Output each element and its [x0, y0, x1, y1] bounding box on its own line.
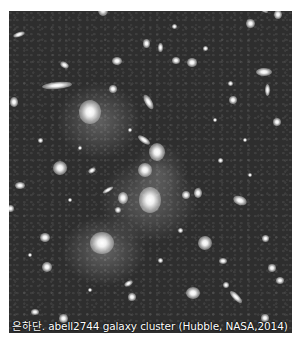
galaxy	[172, 57, 180, 64]
galaxy	[139, 187, 161, 213]
galaxy	[246, 19, 255, 28]
galaxy	[68, 198, 72, 202]
galaxy	[256, 68, 272, 76]
galaxy	[172, 24, 177, 29]
galaxy	[109, 85, 117, 93]
galaxy	[194, 188, 202, 198]
galaxy	[42, 262, 52, 272]
galaxy	[262, 235, 269, 242]
galaxy	[198, 236, 212, 250]
galaxy	[149, 143, 165, 161]
galaxy	[10, 97, 18, 107]
galaxy	[213, 118, 217, 122]
galaxy	[276, 277, 284, 284]
galaxy	[31, 309, 39, 315]
galaxy	[128, 128, 132, 132]
galaxy	[223, 282, 229, 288]
galaxy	[15, 182, 25, 189]
galaxy	[248, 173, 252, 177]
galaxy-cluster-photo	[9, 11, 292, 333]
galaxy	[187, 58, 197, 67]
galaxy	[143, 39, 150, 48]
galaxy	[79, 100, 101, 124]
galaxy	[243, 138, 247, 142]
galaxy	[229, 96, 237, 104]
galaxy	[186, 287, 200, 299]
galaxy	[158, 258, 163, 263]
galaxy	[90, 232, 114, 254]
galaxy	[9, 205, 14, 212]
galaxy	[88, 288, 92, 292]
galaxy	[158, 43, 163, 52]
galaxy	[219, 258, 227, 264]
galaxy	[218, 158, 223, 163]
galaxy	[178, 228, 183, 233]
galaxy	[265, 84, 270, 96]
galaxy	[268, 264, 276, 272]
galaxy	[128, 293, 136, 301]
galaxy	[78, 146, 82, 150]
galaxy	[274, 11, 282, 19]
image-caption: 은하단. abell2744 galaxy cluster (Hubble, N…	[12, 318, 297, 333]
galaxy	[228, 81, 233, 86]
galaxy	[40, 233, 50, 242]
galaxy	[115, 207, 121, 213]
galaxy	[112, 57, 122, 65]
galaxy	[53, 161, 67, 175]
galaxy	[138, 163, 152, 177]
galaxy	[118, 192, 128, 204]
galaxy	[38, 138, 43, 143]
galaxy	[28, 253, 32, 257]
galaxy	[273, 118, 281, 126]
galaxy	[182, 191, 190, 199]
galaxy	[203, 46, 208, 51]
